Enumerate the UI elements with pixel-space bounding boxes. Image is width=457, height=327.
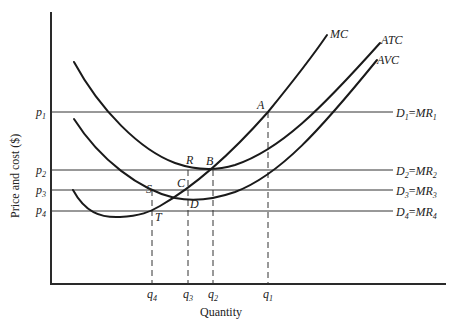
point-a-label: A [256,98,265,112]
demand-label-2: D2=MR2 [395,164,437,180]
point-c-label: C [177,176,186,190]
point-t-label: T [155,210,163,224]
q2-tick: q2 [208,287,218,303]
q3-tick: q3 [183,287,193,303]
q4-tick: q4 [147,287,157,303]
avc-curve [74,60,377,200]
avc-label: AVC [376,53,400,67]
mc-label: MC [329,27,349,41]
svg-text:D1=MR1: D1=MR1 [395,106,437,122]
demand-label-3: D3=MR3 [395,184,437,200]
p1-tick: p1 [35,105,46,121]
atc-label: ATC [380,33,404,47]
q1-tick: q1 [263,287,273,303]
p2-tick: p2 [35,163,46,179]
svg-text:D4=MR4: D4=MR4 [395,205,437,221]
cost-curves-diagram: MC ATC AVC D1=MR1 D2=MR2 D3=MR3 D4=MR4 p… [0,0,457,327]
point-r-label: R [185,153,194,167]
point-b-label: B [206,154,214,168]
p3-tick: p3 [35,183,46,199]
svg-text:D3=MR3: D3=MR3 [395,184,437,200]
demand-label-4: D4=MR4 [395,205,437,221]
x-axis-title: Quantity [200,305,242,319]
point-d-label: D [189,197,199,211]
p4-tick: p4 [35,203,46,219]
demand-label-1: D1=MR1 [395,106,437,122]
point-s-label: S [146,182,152,196]
atc-curve [74,43,380,169]
y-axis-title: Price and cost ($) [8,134,22,218]
svg-text:D2=MR2: D2=MR2 [395,164,437,180]
